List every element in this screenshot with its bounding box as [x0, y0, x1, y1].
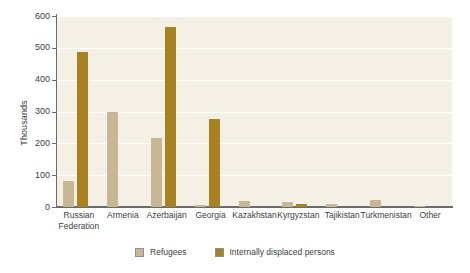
bar [414, 206, 425, 207]
bar-group [276, 16, 320, 207]
chart-legend: RefugeesInternally displaced persons [0, 247, 470, 257]
bar [239, 201, 250, 207]
bar [63, 181, 74, 207]
y-tick-mark [52, 207, 57, 208]
legend-item[interactable]: Refugees [135, 247, 186, 257]
bar [296, 204, 307, 207]
legend-swatch-icon [215, 248, 224, 257]
bar-group [408, 16, 452, 207]
x-axis-labels: RussianFederationArmeniaAzerbaijanGeorgi… [57, 210, 452, 240]
bar [209, 119, 220, 207]
y-tick-label: 100 [20, 171, 50, 180]
bars-layer [57, 16, 452, 207]
bar [107, 112, 118, 207]
y-axis-ticks: 0100200300400500600 [15, 0, 50, 273]
y-tick-label: 0 [20, 203, 50, 212]
bar-chart-figure: Thousands 0100200300400500600 RussianFed… [0, 0, 470, 273]
legend-label: Refugees [150, 247, 186, 257]
bar [165, 27, 176, 207]
y-tick-label: 500 [20, 43, 50, 52]
bar [195, 205, 206, 207]
y-tick-label: 400 [20, 75, 50, 84]
bar-group [57, 16, 101, 207]
legend-label: Internally displaced persons [230, 247, 335, 257]
bar-group [233, 16, 277, 207]
bar [77, 52, 88, 207]
bar [282, 202, 293, 207]
bar-group [320, 16, 364, 207]
bar [370, 200, 381, 207]
bar-group [101, 16, 145, 207]
legend-swatch-icon [135, 248, 144, 257]
x-tick-label: Other [400, 210, 460, 221]
bar-group [145, 16, 189, 207]
y-tick-label: 300 [20, 107, 50, 116]
bar [326, 204, 337, 207]
y-tick-label: 200 [20, 139, 50, 148]
y-tick-label: 600 [20, 12, 50, 21]
bar-group [364, 16, 408, 207]
bar-group [189, 16, 233, 207]
legend-item[interactable]: Internally displaced persons [215, 247, 335, 257]
bar [151, 138, 162, 207]
